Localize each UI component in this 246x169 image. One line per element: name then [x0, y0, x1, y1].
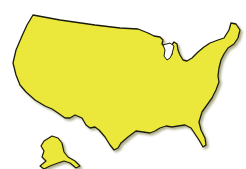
- us-map: [0, 0, 246, 169]
- alaska: [40, 136, 80, 169]
- contiguous-united-states: [13, 15, 240, 150]
